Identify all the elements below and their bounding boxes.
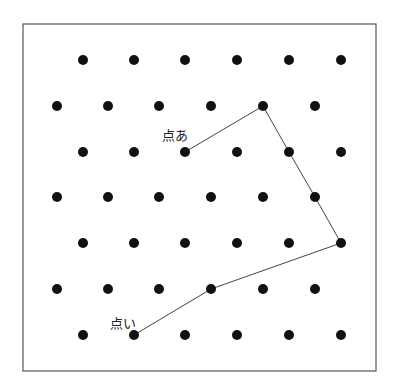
grid-dot (206, 192, 216, 202)
grid-dot (206, 101, 216, 111)
grid-dot (336, 238, 346, 248)
grid-dot (180, 330, 190, 340)
grid-dot (232, 330, 242, 340)
grid-dot (154, 101, 164, 111)
grid-dot (129, 330, 139, 340)
grid-dot (180, 147, 190, 157)
grid-dot (103, 101, 113, 111)
point-i-label: 点い (110, 316, 136, 331)
grid-dot (232, 147, 242, 157)
grid-dot (310, 192, 320, 202)
grid-dot (103, 192, 113, 202)
grid-dot (154, 192, 164, 202)
grid-dot (258, 101, 268, 111)
grid-dot (310, 101, 320, 111)
grid-dot (78, 238, 88, 248)
grid-dot (52, 284, 62, 294)
grid-dot (284, 330, 294, 340)
grid-dot (284, 238, 294, 248)
grid-dot (284, 147, 294, 157)
dot-grid-diagram: 点あ 点い (0, 0, 396, 392)
grid-dot (310, 284, 320, 294)
grid-dot (78, 55, 88, 65)
grid-dot (336, 55, 346, 65)
grid-dot (78, 330, 88, 340)
grid-dot (129, 238, 139, 248)
grid-dot (284, 55, 294, 65)
point-a-label: 点あ (162, 128, 188, 143)
diagram-frame (23, 24, 376, 371)
grid-dot (180, 55, 190, 65)
grid-dot (258, 192, 268, 202)
grid-dot (258, 284, 268, 294)
grid-dot (103, 284, 113, 294)
grid-dot (180, 238, 190, 248)
grid-dot (52, 192, 62, 202)
grid-dots (52, 55, 346, 340)
grid-dot (232, 238, 242, 248)
grid-dot (336, 330, 346, 340)
grid-dot (336, 147, 346, 157)
grid-dot (78, 147, 88, 157)
grid-dot (206, 284, 216, 294)
grid-dot (129, 147, 139, 157)
grid-dot (232, 55, 242, 65)
grid-dot (129, 55, 139, 65)
grid-dot (52, 101, 62, 111)
grid-dot (154, 284, 164, 294)
